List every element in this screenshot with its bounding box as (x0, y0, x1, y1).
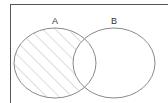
set-a-label: A (52, 16, 58, 26)
venn-diagram: A B (0, 0, 168, 103)
set-b-label: B (111, 16, 117, 26)
